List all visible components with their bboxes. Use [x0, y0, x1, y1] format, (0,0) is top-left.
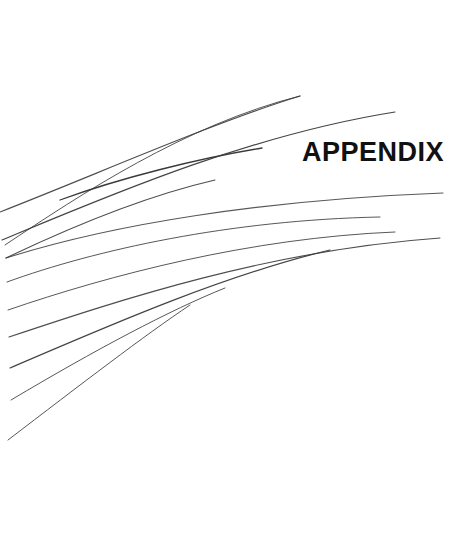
- decorative-arc: [6, 193, 443, 258]
- swoosh-arc-fan-decoration: [0, 0, 475, 538]
- decorative-arc: [9, 238, 440, 337]
- decorative-arc: [2, 112, 395, 240]
- decorative-arc: [8, 305, 190, 440]
- decorative-arc: [60, 148, 262, 200]
- decorative-arc: [10, 250, 330, 368]
- appendix-divider-page: APPENDIX: [0, 0, 475, 538]
- decorative-arc: [11, 288, 225, 400]
- decorative-arc: [0, 96, 300, 212]
- decorative-arc: [7, 217, 380, 282]
- decorative-arc: [6, 180, 215, 258]
- page-title: APPENDIX: [302, 139, 444, 166]
